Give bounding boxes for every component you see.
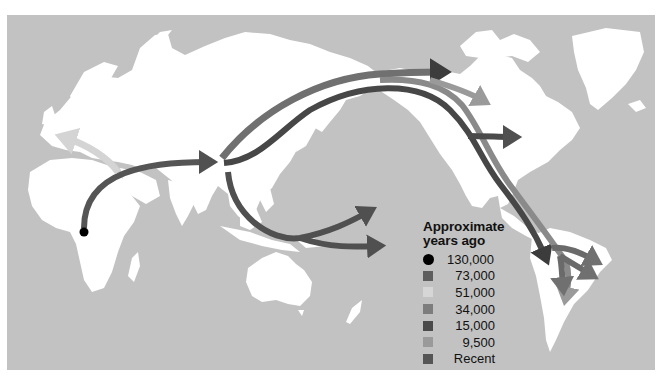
legend-swatch-icon xyxy=(423,321,433,331)
legend-item-51000: 51,000 xyxy=(423,284,504,301)
legend-item-recent: Recent xyxy=(423,351,504,368)
legend-item-9500: 9,500 xyxy=(423,334,504,351)
legend-label: 73,000 xyxy=(439,268,495,283)
landmasses xyxy=(28,28,646,352)
arctic-islands xyxy=(460,30,540,62)
legend-swatch-icon xyxy=(423,287,433,297)
legend-label: 130,000 xyxy=(436,252,494,267)
legend-swatch-icon xyxy=(423,354,433,364)
philippines xyxy=(260,188,274,212)
greenland xyxy=(572,28,644,110)
legend-item-130000: 130,000 xyxy=(423,251,504,268)
map-canvas xyxy=(7,15,655,370)
map-legend: Approximate years ago 130,000 73,000 51,… xyxy=(423,220,504,367)
legend-label: 15,000 xyxy=(439,318,495,333)
legend-label: 9,500 xyxy=(439,335,495,350)
route-sa-branch-south xyxy=(560,256,563,286)
legend-item-15000: 15,000 xyxy=(423,317,504,334)
world-map: Approximate years ago 130,000 73,000 51,… xyxy=(7,15,655,370)
legend-label: Recent xyxy=(439,351,495,366)
india xyxy=(168,180,196,226)
tasmania xyxy=(298,310,304,316)
australia xyxy=(246,252,312,306)
new-zealand xyxy=(346,300,362,324)
legend-swatch-icon xyxy=(423,271,433,281)
legend-dot-icon xyxy=(423,254,434,265)
madagascar xyxy=(128,252,140,282)
legend-label: 34,000 xyxy=(439,302,495,317)
legend-label: 51,000 xyxy=(439,285,495,300)
legend-swatch-icon xyxy=(423,304,433,314)
iceland xyxy=(628,100,646,112)
legend-item-73000: 73,000 xyxy=(423,268,504,285)
legend-title-line1: Approximate xyxy=(423,220,504,234)
legend-list: 130,000 73,000 51,000 34,000 15,000 9,50… xyxy=(423,251,504,367)
legend-title: Approximate years ago xyxy=(423,220,504,248)
legend-title-line2: years ago xyxy=(423,234,504,248)
legend-swatch-icon xyxy=(423,337,433,347)
legend-item-34000: 34,000 xyxy=(423,301,504,318)
origin-marker-dot xyxy=(80,228,89,237)
route-canada-east xyxy=(468,136,512,137)
